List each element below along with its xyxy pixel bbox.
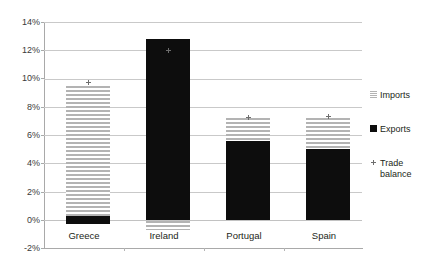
legend-label-trade-balance: Trade balance — [380, 158, 412, 180]
bar-chart: 14% 12% 10% 8% 6% 4% 2% 0% -2% — [0, 0, 424, 266]
bar-group-portugal — [226, 22, 270, 248]
y-axis-tick-label: 12% — [0, 46, 40, 55]
x-axis-label-portugal: Portugal — [204, 231, 284, 241]
y-axis-tick-label: -2% — [0, 244, 40, 253]
legend-label-imports: Imports — [380, 90, 410, 101]
y-axis-labels: 14% 12% 10% 8% 6% 4% 2% 0% -2% — [0, 0, 40, 266]
trade-balance-marker — [246, 115, 251, 120]
trade-balance-marker-swatch-icon — [370, 159, 377, 166]
trade-balance-marker — [326, 114, 331, 119]
bar-segment-imports — [146, 221, 190, 230]
x-axis-tick — [284, 248, 285, 251]
trade-balance-marker — [166, 48, 171, 53]
x-axis-label-ireland: Ireland — [124, 231, 204, 241]
bar-segment-imports — [226, 118, 270, 141]
bar-segment-exports — [306, 149, 350, 220]
imports-hatch-swatch-icon — [370, 91, 377, 98]
x-axis-label-greece: Greece — [44, 231, 124, 241]
y-axis-tick-label: 8% — [0, 103, 40, 112]
y-axis-tick-label: 10% — [0, 74, 40, 83]
y-axis-tick-label: 14% — [0, 18, 40, 27]
y-axis-tick-label: 4% — [0, 159, 40, 168]
x-axis-label-spain: Spain — [284, 231, 364, 241]
bar-group-greece — [66, 22, 110, 248]
bar-segment-imports — [66, 86, 110, 216]
bar-group-spain — [306, 22, 350, 248]
bar-segment-exports — [146, 39, 190, 220]
trade-balance-marker — [86, 80, 91, 85]
bar-segment-exports — [226, 141, 270, 220]
x-axis-tick — [204, 248, 205, 251]
y-axis-tick-label: 6% — [0, 131, 40, 140]
bar-segment-exports — [66, 216, 110, 224]
y-axis-tick-label: 0% — [0, 216, 40, 225]
exports-black-swatch-icon — [370, 125, 377, 132]
legend-item-exports: Exports — [370, 124, 411, 135]
y-axis-tick-label: 2% — [0, 188, 40, 197]
legend-item-imports: Imports — [370, 90, 410, 101]
legend-item-trade-balance: Trade balance — [370, 158, 412, 180]
legend-label-exports: Exports — [380, 124, 411, 135]
plot-area — [44, 22, 362, 248]
bar-segment-imports — [306, 118, 350, 149]
bar-group-ireland — [146, 22, 190, 248]
x-axis-tick — [124, 248, 125, 251]
